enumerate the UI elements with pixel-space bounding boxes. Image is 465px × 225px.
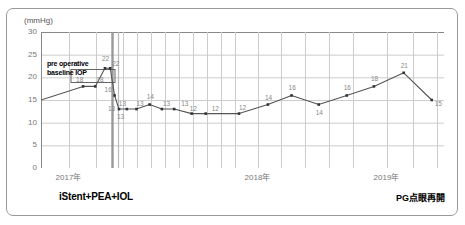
data-point-11 (173, 108, 176, 111)
data-point-15 (267, 103, 270, 106)
x-tick-2017: 2017年 (39, 174, 99, 182)
data-point-9 (148, 103, 151, 106)
data-point-12 (190, 112, 193, 115)
data-point-5 (113, 94, 116, 97)
data-point-21 (430, 99, 433, 102)
data-label-16: 16 (289, 84, 296, 91)
y-axis-unit-label: (mmHg) (24, 16, 53, 25)
data-label-17: 14 (316, 109, 323, 116)
data-point-7 (126, 108, 129, 111)
y-tick-15: 15 (11, 96, 37, 104)
data-point-17 (317, 103, 320, 106)
data-point-13 (204, 112, 207, 115)
pre-operative-annotation: pre operative baseline IOP (47, 59, 88, 77)
data-label-7: 13 (119, 100, 126, 107)
data-point-3 (104, 67, 107, 70)
data-label-6-lower: 13 (117, 113, 124, 120)
y-tick-25: 25 (11, 51, 37, 59)
annotation-line-1: pre operative (47, 59, 88, 68)
x-tick-2018: 2018年 (228, 174, 288, 182)
plot-area (41, 32, 444, 168)
data-label-10: 13 (163, 100, 170, 107)
data-label-1: 18 (76, 76, 83, 83)
data-point-19 (373, 85, 376, 88)
data-label-4: 22 (112, 60, 119, 67)
y-tick-20: 20 (11, 73, 37, 81)
data-point-8 (135, 108, 138, 111)
data-label-18: 16 (344, 84, 351, 91)
line-chart-svg (41, 32, 444, 168)
data-label-2: 18 (96, 76, 103, 83)
data-point-6 (118, 108, 121, 111)
data-label-19: 18 (371, 75, 378, 82)
y-tick-30: 30 (11, 28, 37, 36)
data-point-14 (238, 112, 241, 115)
x-tick-2019: 2019年 (357, 174, 417, 182)
data-label-15: 14 (265, 94, 272, 101)
data-label-3: 22 (102, 55, 109, 62)
data-label-6: 13 (108, 105, 115, 112)
chart-screenshot: (mmHg) 302520151050 2017年2018年2019年 pre … (0, 0, 465, 225)
data-point-4 (109, 67, 112, 70)
data-label-14: 12 (239, 104, 246, 111)
caption-surgery-label: iStent+PEA+IOL (59, 191, 133, 202)
data-point-16 (290, 94, 293, 97)
data-point-18 (345, 94, 348, 97)
data-label-13: 12 (212, 105, 219, 112)
data-label-9: 14 (147, 93, 154, 100)
data-label-5: 16 (105, 86, 112, 93)
data-label-11: 13 (181, 100, 188, 107)
data-label-12: 12 (190, 105, 197, 112)
data-point-10 (161, 108, 164, 111)
data-point-20 (402, 72, 405, 75)
y-tick-0: 0 (11, 164, 37, 172)
data-label-20: 21 (401, 62, 408, 69)
data-label-8: 13 (136, 100, 143, 107)
data-label-21: 15 (435, 100, 442, 107)
caption-restart-label: PG点眼再開 (396, 191, 445, 204)
y-tick-10: 10 (11, 119, 37, 127)
data-point-1 (82, 85, 85, 88)
data-point-2 (94, 85, 97, 88)
y-tick-5: 5 (11, 141, 37, 149)
